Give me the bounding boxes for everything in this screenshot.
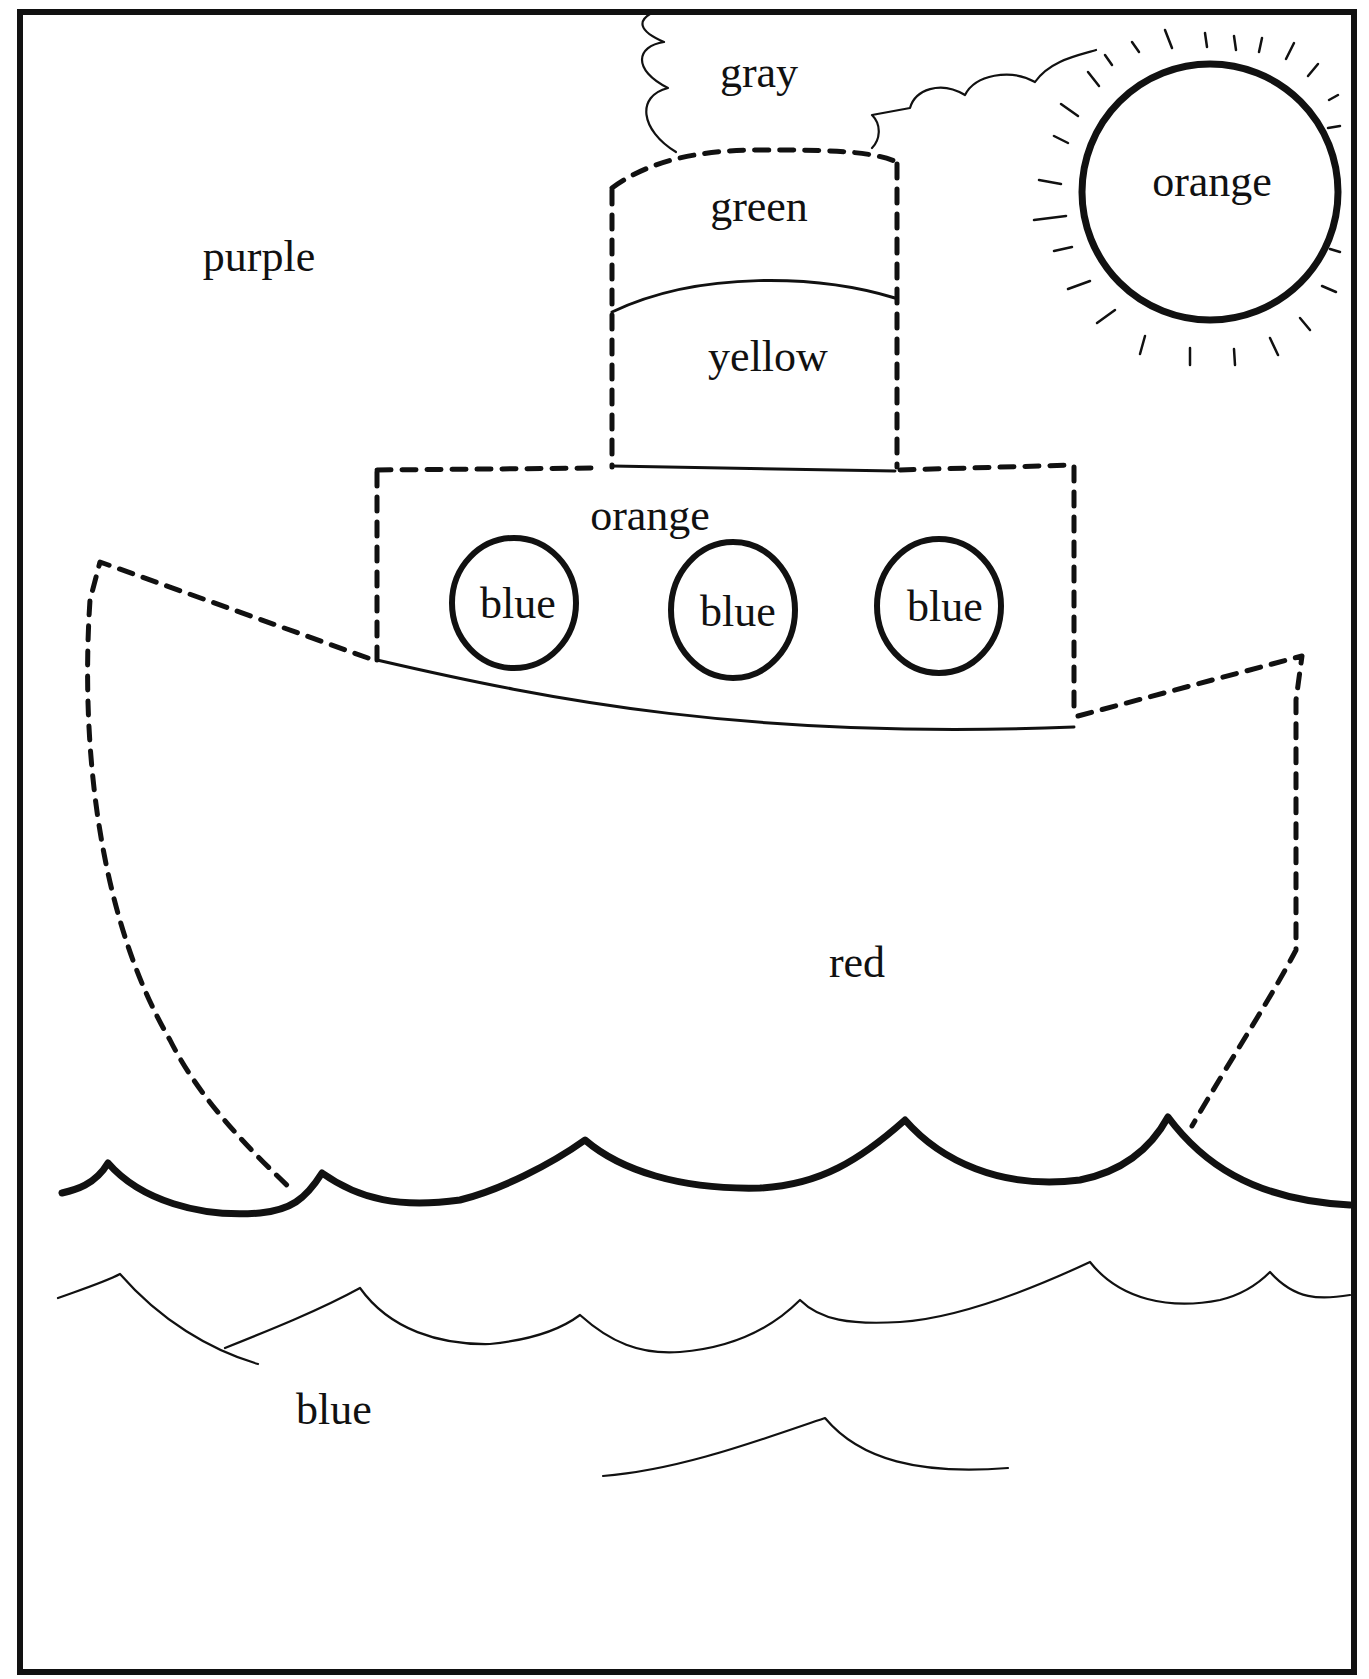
label-porthole-3: blue bbox=[907, 585, 983, 629]
wave-thin-3 bbox=[603, 1418, 1008, 1476]
wave-thick bbox=[62, 1117, 1350, 1214]
label-sun: orange bbox=[1152, 160, 1272, 204]
label-hull: red bbox=[829, 941, 885, 985]
wave-thin-1 bbox=[58, 1274, 258, 1364]
label-smokestack-bottom: yellow bbox=[708, 335, 828, 379]
smokestack-base-line bbox=[612, 466, 895, 471]
wave-thin-2 bbox=[225, 1262, 1350, 1352]
label-porthole-2: blue bbox=[700, 590, 776, 634]
cloud-outline bbox=[642, 14, 1096, 152]
cabin-deck-line bbox=[377, 660, 1074, 729]
smokestack-band-line bbox=[612, 281, 895, 312]
label-cabin: orange bbox=[590, 494, 710, 538]
label-sea: blue bbox=[296, 1388, 372, 1432]
label-smokestack-top: green bbox=[710, 185, 808, 229]
hull-outline bbox=[88, 562, 1302, 1190]
label-cloud: gray bbox=[720, 51, 798, 95]
coloring-page: gray green yellow orange purple orange b… bbox=[0, 0, 1369, 1679]
label-porthole-1: blue bbox=[480, 582, 556, 626]
label-sky: purple bbox=[203, 235, 315, 279]
